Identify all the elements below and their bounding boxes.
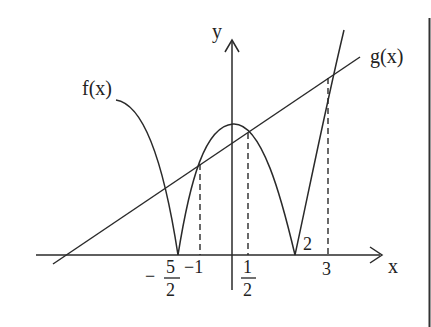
frac-neg-den: 2 xyxy=(166,280,175,300)
frac-half-den: 2 xyxy=(243,280,252,300)
tick-label-2: 2 xyxy=(303,234,312,254)
x-axis-label: x xyxy=(388,255,398,277)
frac-half-num: 1 xyxy=(243,257,252,277)
frac-neg-num: 5 xyxy=(166,257,175,277)
f-curve-left xyxy=(116,100,178,255)
function-graph: y x g(x) f(x) 2 3 −1 − 5 2 1 2 xyxy=(0,0,431,327)
tick-label-neg1: −1 xyxy=(184,257,203,277)
f-curve-middle xyxy=(178,124,295,255)
frac-neg-sign: − xyxy=(145,266,155,286)
y-axis-label: y xyxy=(212,20,222,43)
f-label: f(x) xyxy=(82,77,112,100)
f-curve-right xyxy=(295,30,344,255)
tick-label-3: 3 xyxy=(322,259,331,279)
g-label: g(x) xyxy=(370,45,403,68)
